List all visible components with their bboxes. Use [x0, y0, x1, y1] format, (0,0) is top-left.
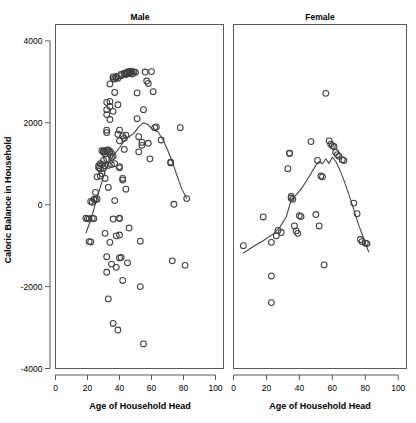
x-axis-tick-label: 80	[361, 383, 371, 393]
y-axis-tick-label: 2000	[24, 118, 43, 128]
y-axis-tick-label: -2000	[21, 282, 43, 292]
y-axis-tick-label: 0	[38, 200, 43, 210]
x-axis-tick-label: 40	[295, 383, 305, 393]
y-axis-tick-label: -4000	[21, 364, 43, 374]
x-axis-tick-label: 0	[231, 383, 236, 393]
x-axis-title-female: Age of Household Head	[269, 401, 371, 411]
x-axis-tick-label: 0	[53, 383, 58, 393]
x-axis-tick-label: 40	[115, 383, 125, 393]
x-axis-tick-label: 60	[147, 383, 157, 393]
scatter-plot-figure: Male 400020000-2000-4000 020406080100 Ag…	[0, 0, 416, 423]
panel-title-female: Female	[305, 12, 335, 22]
x-axis-tick-label: 20	[83, 383, 93, 393]
figure-background	[0, 0, 416, 423]
panel-title-male: Male	[131, 12, 150, 22]
x-axis-tick-label: 20	[262, 383, 272, 393]
x-axis-title-male: Age of Household Head	[89, 401, 191, 411]
y-axis-title: Caloric Balance in Household	[3, 136, 13, 263]
y-axis-tick-label: 4000	[24, 36, 43, 46]
x-axis-tick-label: 60	[328, 383, 338, 393]
figure-root: Male 400020000-2000-4000 020406080100 Ag…	[0, 0, 416, 423]
x-axis-tick-label: 80	[179, 383, 189, 393]
x-axis-tick-label: 100	[208, 383, 222, 393]
x-axis-tick-label: 100	[391, 383, 405, 393]
